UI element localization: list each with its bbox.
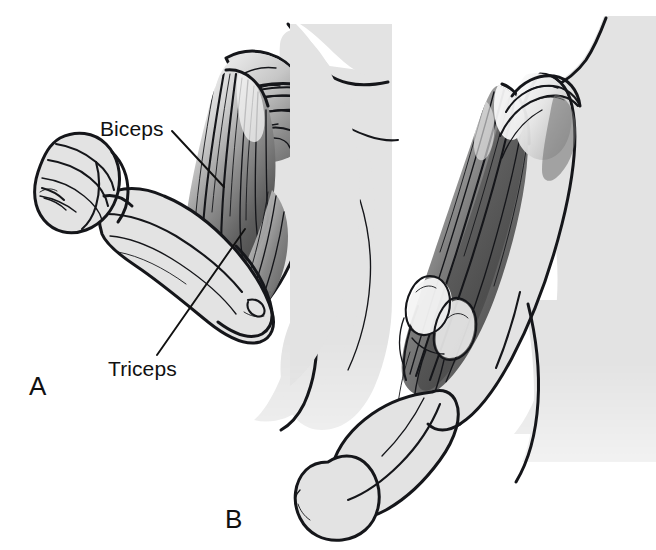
panel-letter-a: A [29, 371, 47, 401]
biceps-label: Biceps [100, 117, 164, 140]
figure-canvas: Biceps Triceps A B [0, 0, 656, 550]
triceps-label: Triceps [108, 357, 177, 380]
anatomy-figure: Biceps Triceps A B [0, 0, 656, 550]
panel-b-hand [295, 456, 379, 540]
panel-letter-b: B [225, 504, 242, 534]
